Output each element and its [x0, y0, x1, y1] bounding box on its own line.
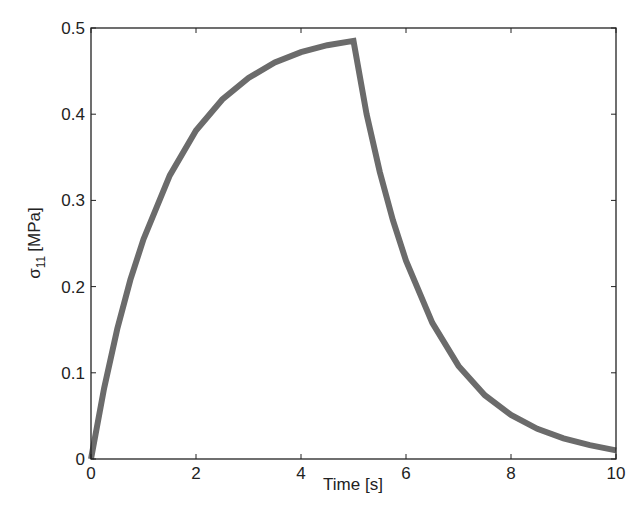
y-tick-label: 0.2: [61, 278, 85, 297]
x-tick-label: 4: [296, 464, 305, 483]
x-axis-label: Time [s]: [323, 475, 383, 494]
y-axis-label-unit: [MPa]: [25, 207, 44, 251]
x-tick-label: 0: [86, 464, 95, 483]
x-tick-label: 6: [401, 464, 410, 483]
x-tick-label: 8: [506, 464, 515, 483]
x-tick-label: 2: [191, 464, 200, 483]
y-tick-label: 0.3: [61, 191, 85, 210]
stress-time-chart: 0246810 00.10.20.30.40.5 Time [s] σ11[MP…: [0, 0, 640, 527]
y-tick-label: 0.1: [61, 364, 85, 383]
y-tick-label: 0.4: [61, 105, 85, 124]
y-axis-label-subscript: 11: [34, 255, 48, 268]
y-tick-label: 0: [76, 450, 85, 469]
y-tick-label: 0.5: [61, 19, 85, 38]
y-axis-label: σ11[MPa]: [25, 207, 48, 278]
x-tick-label: 10: [607, 464, 626, 483]
plot-area: [91, 28, 616, 459]
y-axis-label-symbol: σ: [25, 268, 44, 279]
